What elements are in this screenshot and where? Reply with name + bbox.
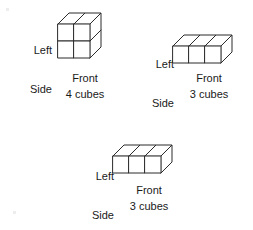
- figure-2-left-text: Left: [130, 58, 174, 71]
- figure-1: Left Side Front 4 cubes: [0, 0, 130, 115]
- figure-1-count-label: 4 cubes: [53, 88, 117, 101]
- figure-2-count-label: 3 cubes: [177, 88, 241, 101]
- figure-3-count-label: 3 cubes: [117, 200, 181, 213]
- cube-front-face-3: [145, 156, 161, 173]
- cube-front-face-2: [129, 156, 145, 173]
- cube-front-face-1: [113, 156, 129, 173]
- cube-front-face-2: [189, 46, 205, 63]
- cube-front-face-3: [205, 46, 221, 63]
- figure-1-front-label: Front: [56, 72, 114, 85]
- cube-front-face-bottom-left: [58, 41, 74, 58]
- diagram-canvas: Left Side Front 4 cubes Left Side: [0, 0, 253, 230]
- figure-3-side-text: Side: [70, 209, 114, 222]
- cube-front-face-bottom-right: [74, 41, 90, 58]
- figure-3: Left Side Front 3 cubes: [68, 126, 198, 226]
- corner-speck-bottom: [13, 211, 16, 214]
- figure-1-side-text: Side: [8, 83, 52, 96]
- figure-2-cube-row: [170, 28, 242, 74]
- figure-2-front-label: Front: [180, 72, 238, 85]
- figure-1-left-side-label: Left Side: [8, 18, 52, 122]
- figure-1-left-text: Left: [8, 44, 52, 57]
- figure-3-cube-row: [110, 138, 182, 184]
- figure-3-left-side-label: Left Side: [70, 144, 114, 230]
- figure-3-left-text: Left: [70, 170, 114, 183]
- figure-2-side-text: Side: [130, 97, 174, 110]
- cube-front-face-1: [173, 46, 189, 63]
- figure-2-left-side-label: Left Side: [130, 32, 174, 136]
- cube-front-face-top-left: [58, 24, 74, 41]
- cube-front-face-top-right: [74, 24, 90, 41]
- figure-3-front-label: Front: [120, 184, 178, 197]
- figure-2: Left Side Front 3 cubes: [128, 12, 253, 115]
- figure-1-cube-stack: [55, 8, 113, 70]
